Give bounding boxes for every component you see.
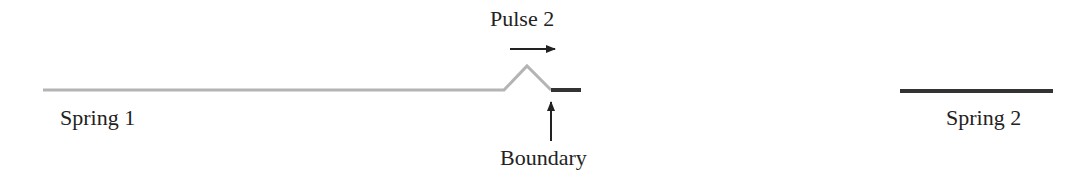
boundary-label: Boundary xyxy=(500,147,587,169)
spring-2-label: Spring 2 xyxy=(946,107,1021,129)
spring-1-line xyxy=(43,66,551,90)
spring-1-label: Spring 1 xyxy=(60,107,135,129)
pulse-label: Pulse 2 xyxy=(490,8,554,30)
